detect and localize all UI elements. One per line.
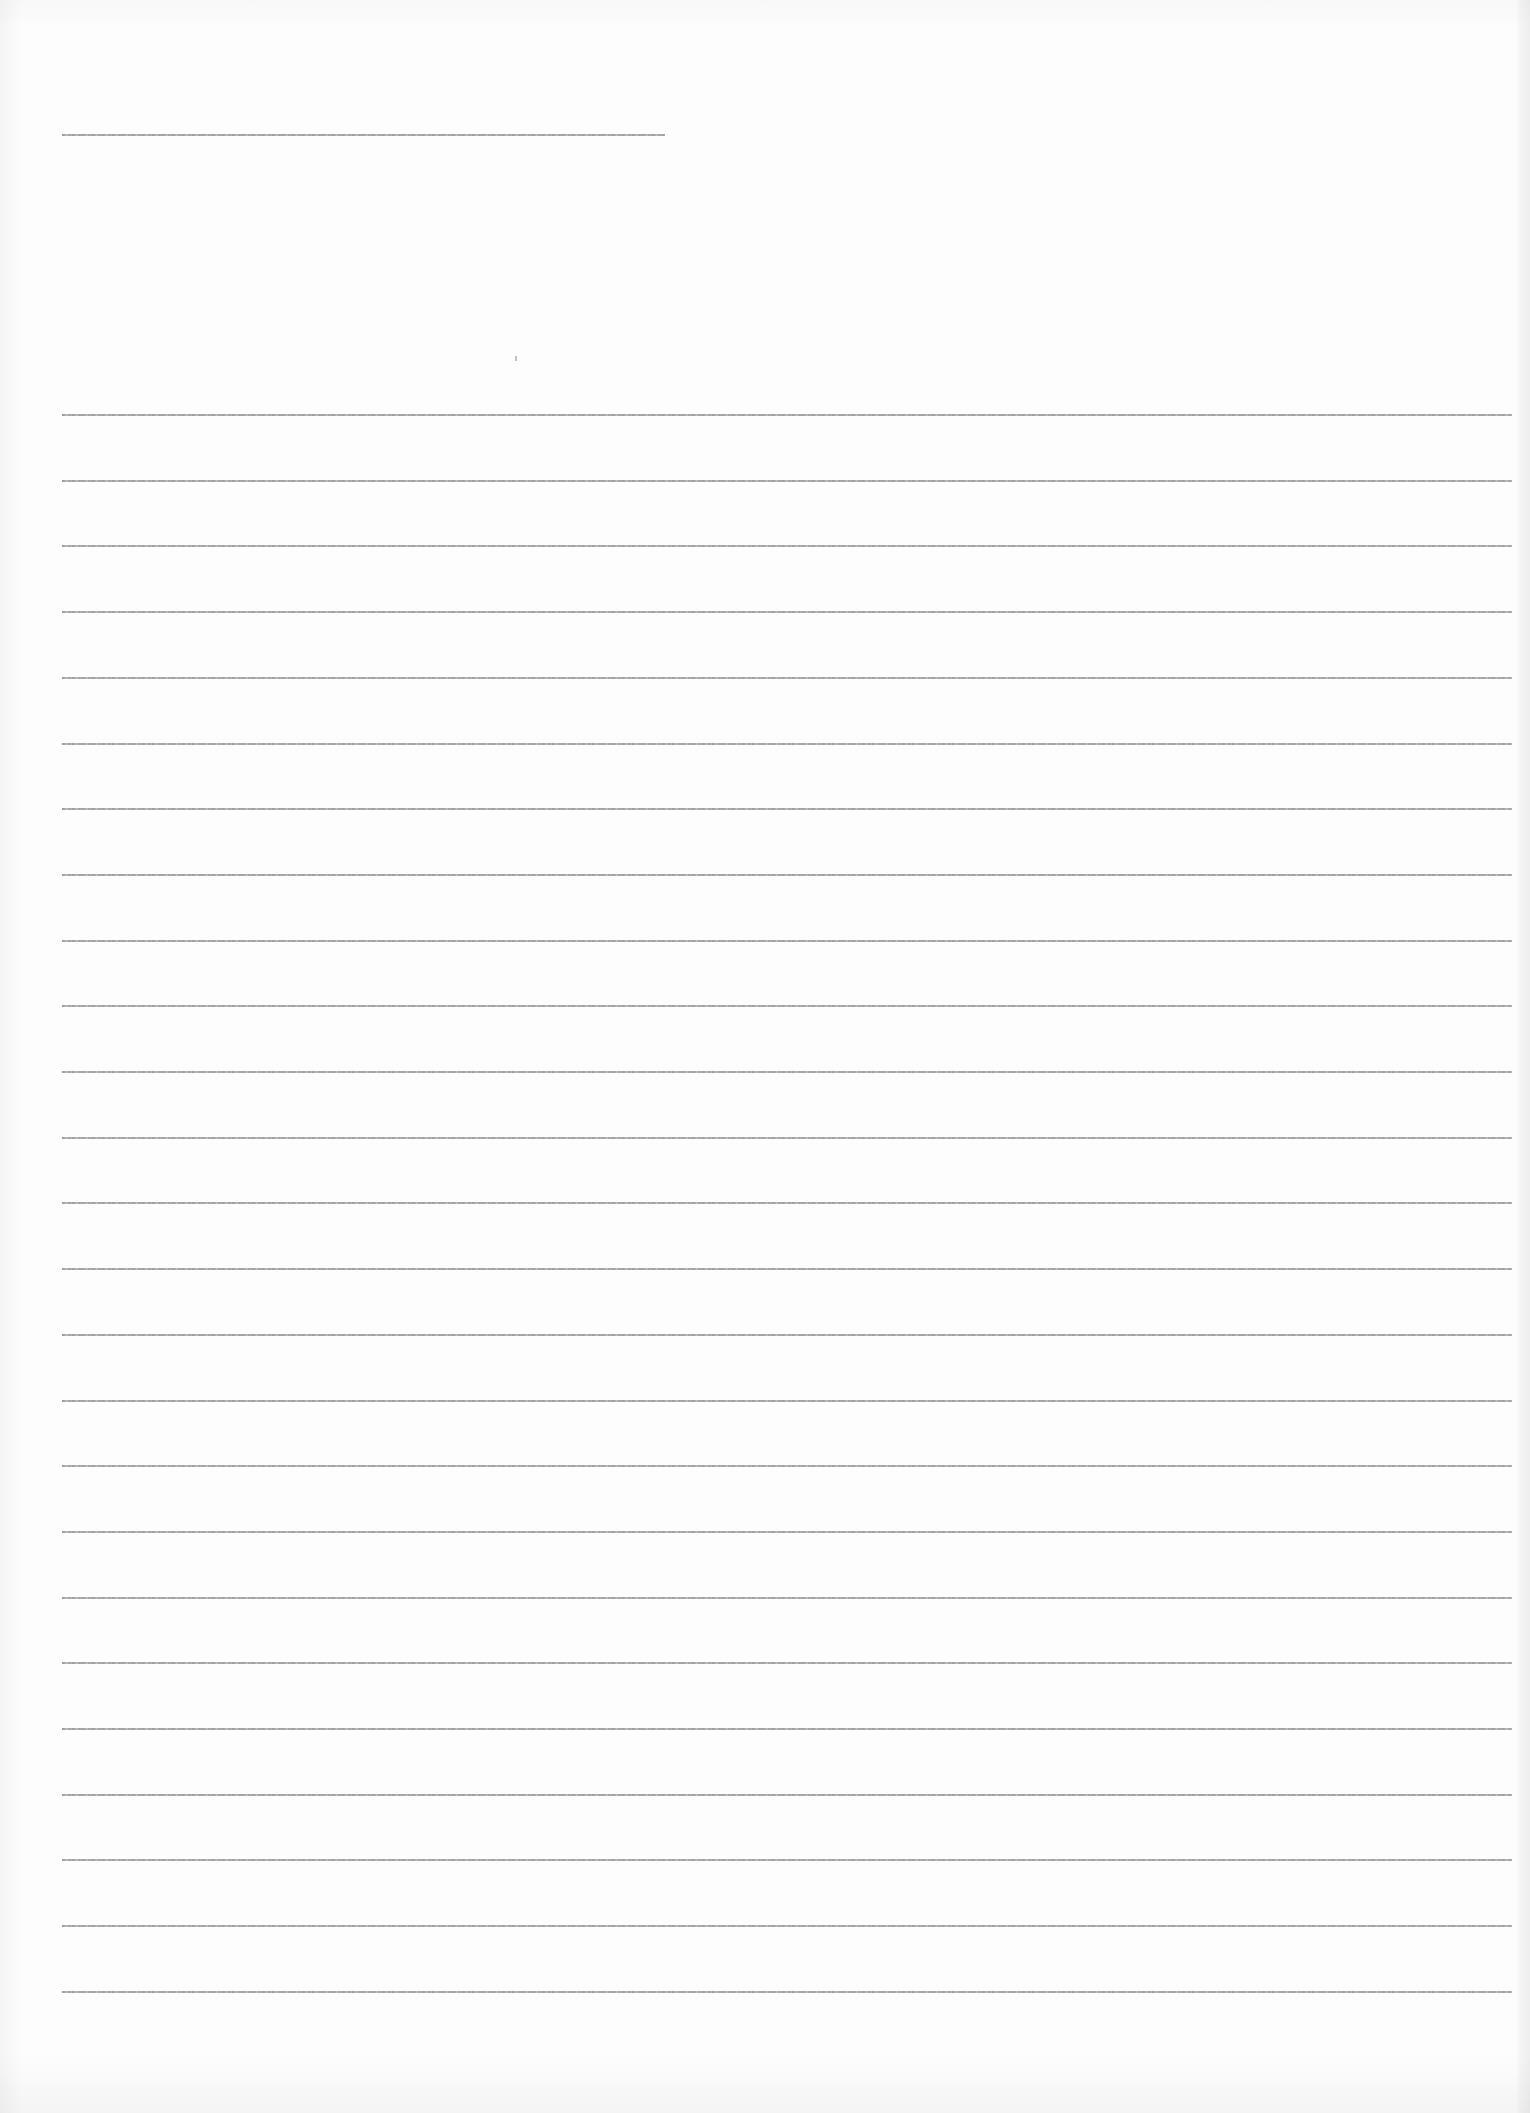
- ruled-line: [62, 1794, 1512, 1796]
- ruled-line: [62, 414, 1512, 416]
- ruled-line: [62, 940, 1512, 942]
- ruled-line: [62, 1071, 1512, 1073]
- ruled-line: [62, 1202, 1512, 1204]
- ruled-line: [62, 1268, 1512, 1270]
- ruled-line: [62, 1662, 1512, 1664]
- ruled-line: [62, 808, 1512, 810]
- scan-speck: [515, 356, 517, 361]
- header-line: [62, 134, 665, 136]
- ruled-line: [62, 874, 1512, 876]
- ruled-line: [62, 743, 1512, 745]
- ruled-line: [62, 1005, 1512, 1007]
- ruled-line: [62, 1137, 1512, 1139]
- ruled-line: [62, 480, 1512, 482]
- ruled-line: [62, 1859, 1512, 1861]
- ruled-line: [62, 1465, 1512, 1467]
- ruled-line: [62, 611, 1512, 613]
- ruled-line: [62, 677, 1512, 679]
- ruled-line: [62, 1531, 1512, 1533]
- ruled-page: [0, 0, 1530, 2113]
- ruled-line: [62, 545, 1512, 547]
- ruled-line: [62, 1334, 1512, 1336]
- ruled-line: [62, 1728, 1512, 1730]
- ruled-line: [62, 1925, 1512, 1927]
- ruled-line: [62, 1991, 1512, 1993]
- ruled-line: [62, 1597, 1512, 1599]
- ruled-line: [62, 1400, 1512, 1402]
